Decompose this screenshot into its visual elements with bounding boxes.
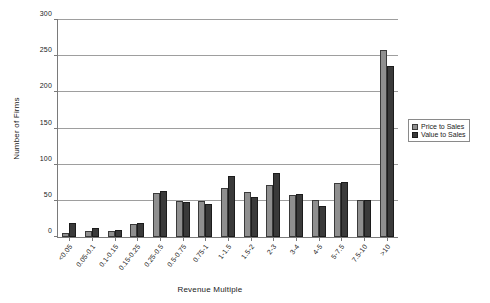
y-axis-tick-label: 250 [40, 46, 52, 53]
y-axis-tick-label: 0 [48, 227, 52, 234]
bar-group [307, 20, 330, 237]
legend-swatch-icon [412, 124, 418, 130]
bar [198, 201, 205, 237]
bar [69, 223, 76, 237]
bar-group [81, 20, 104, 237]
x-tick-label: 1.5-2 [240, 243, 256, 260]
x-tick-label: 5-7.5 [330, 243, 346, 260]
x-tick-label: 4-5 [311, 243, 323, 256]
y-axis-tick-label: 200 [40, 82, 52, 89]
bar [334, 183, 341, 237]
bar [228, 176, 235, 237]
x-tick-label: 2-3 [266, 243, 278, 256]
x-tick-label: 7.5-10 [350, 243, 368, 263]
bar-group [330, 20, 353, 237]
bar [387, 66, 394, 237]
y-axis-tick-label: 300 [40, 10, 52, 17]
bar [312, 200, 319, 237]
bar [251, 197, 258, 238]
bar [160, 191, 167, 237]
x-tick-label: 0.75-1 [192, 243, 210, 263]
bar-group [58, 20, 81, 237]
x-tick-label: 3-4 [289, 243, 301, 256]
bar-group [353, 20, 376, 237]
bar-group [262, 20, 285, 237]
y-axis-tick-label: 150 [40, 118, 52, 125]
bar [380, 50, 387, 237]
legend-item: Price to Sales [412, 123, 466, 130]
legend-label: Value to Sales [421, 131, 466, 138]
bar-group [285, 20, 308, 237]
bar [266, 185, 273, 237]
legend-item: Value to Sales [412, 131, 466, 138]
bar [357, 200, 364, 237]
bar [153, 193, 160, 237]
y-axis-title: Number of Firms [12, 20, 21, 237]
plot-area: 050100150200250300 [57, 20, 398, 238]
bar-series-container [58, 20, 398, 237]
bar-group [194, 20, 217, 237]
x-tick-label: >10 [378, 243, 391, 257]
x-tick-label: <0.05 [57, 243, 74, 262]
bar [341, 182, 348, 237]
bar [296, 194, 303, 237]
bar [62, 233, 69, 237]
bar-group [239, 20, 262, 237]
bar-group [217, 20, 240, 237]
legend-swatch-icon [412, 132, 418, 138]
bar [205, 204, 212, 237]
legend-label: Price to Sales [421, 123, 464, 130]
bar [130, 224, 137, 237]
bar-group [375, 20, 398, 237]
bar [244, 192, 251, 237]
bar [176, 201, 183, 237]
bar [137, 223, 144, 237]
x-tick-label: 1-1.5 [217, 243, 233, 260]
bar [108, 231, 115, 238]
bar [273, 173, 280, 237]
y-axis-tick-label: 100 [40, 154, 52, 161]
bar [319, 206, 326, 237]
bar-group [149, 20, 172, 237]
bar-group [171, 20, 194, 237]
bar [364, 200, 371, 237]
chart-legend: Price to SalesValue to Sales [408, 119, 470, 142]
bar [115, 230, 122, 237]
y-axis-tick-label: 50 [44, 190, 52, 197]
bar [183, 202, 190, 237]
x-axis-title: Revenue Multiple [0, 285, 420, 294]
bar [85, 231, 92, 237]
bar [92, 228, 99, 237]
bar [221, 188, 228, 237]
bar-chart: Number of Firms 050100150200250300 <0.05… [0, 0, 490, 303]
bar [289, 195, 296, 237]
bar-group [103, 20, 126, 237]
bar-group [126, 20, 149, 237]
